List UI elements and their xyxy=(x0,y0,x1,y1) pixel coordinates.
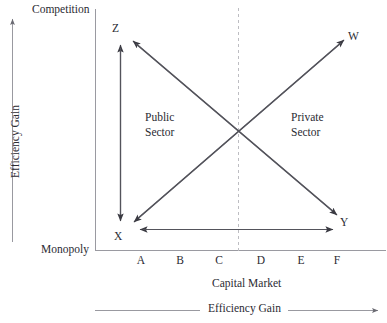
tick-label-a: A xyxy=(134,254,148,268)
region-label-public-line1: Public xyxy=(145,111,174,125)
tick-label-f: F xyxy=(330,254,344,268)
horizontal-axis-title: Capital Market xyxy=(212,277,281,291)
tick-label-b: B xyxy=(173,254,187,268)
tick-label-e: E xyxy=(294,254,308,268)
vertical-axis-title: Efficiency Gain xyxy=(9,105,23,178)
region-label-public-line2: Sector xyxy=(145,126,174,140)
tick-label-c: C xyxy=(212,254,226,268)
tick-label-d: D xyxy=(254,254,268,268)
region-label-private-line1: Private xyxy=(291,111,324,125)
node-label-z: Z xyxy=(112,22,119,36)
region-label-private-line2: Sector xyxy=(291,126,320,140)
diagram-vector-layer xyxy=(0,0,387,323)
bottom-axis-title: Efficiency Gain xyxy=(208,302,281,316)
node-label-w: W xyxy=(348,30,359,44)
competition-label: Competition xyxy=(32,3,90,17)
node-label-x: X xyxy=(114,230,122,244)
diagram-canvas: Efficiency Gain Competition Monopoly Z W… xyxy=(0,0,387,323)
node-label-y: Y xyxy=(340,216,348,230)
monopoly-label: Monopoly xyxy=(41,243,89,257)
